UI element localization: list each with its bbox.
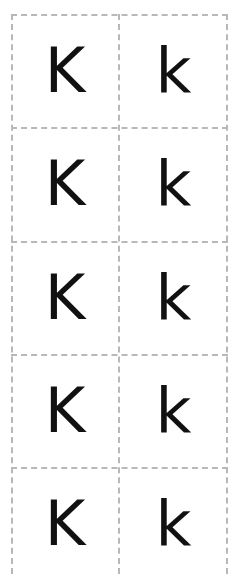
lowercase-letter: k (119, 127, 228, 240)
letter-row: K k (11, 127, 228, 240)
letter-row: K k (11, 467, 228, 574)
uppercase-letter: K (11, 354, 119, 467)
uppercase-letter: K (11, 467, 119, 574)
uppercase-letter: K (11, 14, 119, 127)
letter-row: K k (11, 241, 228, 354)
uppercase-letter: K (11, 241, 119, 354)
lowercase-letter: k (119, 14, 228, 127)
letter-row: K k (11, 354, 228, 467)
lowercase-letter: k (119, 241, 228, 354)
letter-tracing-grid: K k K k K k K k K k (11, 14, 228, 574)
lowercase-letter: k (119, 354, 228, 467)
letter-row: K k (11, 14, 228, 127)
lowercase-letter: k (119, 467, 228, 574)
uppercase-letter: K (11, 127, 119, 240)
